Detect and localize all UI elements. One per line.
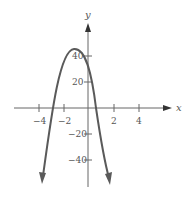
parabola-chart: x y −4 −2 2 4 40 20 −20 −40 xyxy=(0,0,188,199)
x-tick-label: −2 xyxy=(58,116,71,126)
x-tick-label: 2 xyxy=(111,116,117,126)
y-tick-label: −20 xyxy=(68,129,87,139)
x-axis-label: x xyxy=(176,102,182,113)
y-axis-label: y xyxy=(84,9,91,20)
right-arrowhead-icon xyxy=(105,172,112,185)
x-tick-label: −4 xyxy=(33,116,47,126)
y-axis-arrow-icon xyxy=(85,23,91,32)
x-tick-label: 4 xyxy=(136,116,142,126)
x-axis-arrow-icon xyxy=(163,105,172,111)
y-tick-label: 20 xyxy=(72,77,84,87)
left-arrowhead-icon xyxy=(39,172,46,184)
y-tick-label: −40 xyxy=(68,155,87,165)
